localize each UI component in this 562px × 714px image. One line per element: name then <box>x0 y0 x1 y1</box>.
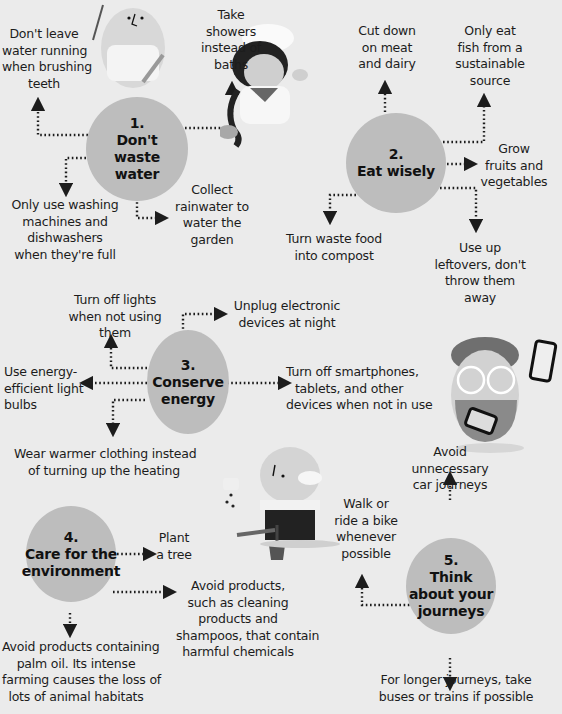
tip-turn-off-devices: Turn off smartphones, tablets, and other… <box>286 364 412 414</box>
tip-unplug-electronics: Unplug electronic devices at night <box>230 298 344 331</box>
section-4-title-line: Care for the <box>22 546 120 563</box>
tip-walk-or-bike: Walk or ride a bike whenever possible <box>334 496 398 562</box>
section-4-title-line: environment <box>22 563 120 580</box>
section-2-circle: 2. Eat wisely <box>346 113 446 213</box>
person-bathrobe-illustration <box>85 0 190 90</box>
section-5-circle: 5. Think about your journeys <box>406 538 496 634</box>
section-4-circle: 4. Care for the environment <box>26 506 116 602</box>
tip-warmer-clothing: Wear warmer clothing instead of turning … <box>14 446 194 479</box>
section-3-title-line: Conserve <box>152 374 224 391</box>
tip-avoid-palm-oil: Avoid products containing palm oil. Its … <box>2 639 150 705</box>
tip-use-leftovers: Use up leftovers, don't throw them away <box>430 240 530 306</box>
section-1-circle: 1. Don't waste water <box>86 97 188 201</box>
tip-plant-tree: Plant a tree <box>153 530 195 563</box>
section-1-title-line: Don't <box>114 132 160 149</box>
tip-full-washing-machines: Only use washing machines and dishwasher… <box>10 197 120 263</box>
tip-grow-fruits: Grow fruits and vegetables <box>478 141 550 191</box>
tip-avoid-car-journeys: Avoid unnecessary car journeys <box>410 444 490 494</box>
section-1-number: 1. <box>114 115 160 132</box>
tip-avoid-harmful-chemicals: Avoid products, such as cleaning product… <box>176 578 300 661</box>
tip-energy-efficient-bulbs: Use energy- efficient light bulbs <box>4 364 84 414</box>
section-1-title-line: water <box>114 166 160 183</box>
section-5-number: 5. <box>409 552 493 569</box>
section-2-number: 2. <box>357 146 435 163</box>
tip-compost: Turn waste food into compost <box>282 231 386 264</box>
section-1-title-line: waste <box>114 149 160 166</box>
section-3-title-line: energy <box>152 391 224 408</box>
section-3-number: 3. <box>152 357 224 374</box>
section-5-title-line: Think <box>409 569 493 586</box>
tip-dont-leave-water-running: Don't leave water running when brushing … <box>2 26 86 92</box>
section-5-title-line: about your <box>409 586 493 603</box>
section-3-circle: 3. Conserve energy <box>147 330 229 434</box>
section-5-title-line: journeys <box>409 603 493 620</box>
tip-collect-rainwater: Collect rainwater to water the garden <box>174 182 250 248</box>
person-with-glasses-illustration <box>445 320 562 455</box>
section-4-number: 4. <box>22 529 120 546</box>
tip-buses-or-trains: For longer journeys, take buses or train… <box>376 672 536 705</box>
tip-take-showers: Take showers instead of baths <box>200 7 262 73</box>
tip-turn-off-lights: Turn off lights when not using them <box>68 292 162 342</box>
tip-sustainable-fish: Only eat fish from a sustainable source <box>452 23 528 89</box>
tip-cut-down-meat: Cut down on meat and dairy <box>356 23 418 73</box>
gardener-illustration <box>205 440 340 560</box>
section-2-title-line: Eat wisely <box>357 163 435 180</box>
